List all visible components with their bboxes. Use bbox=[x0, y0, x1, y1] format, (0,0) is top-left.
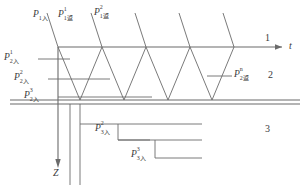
z-axis-label: Z bbox=[53, 168, 59, 178]
label-p-2-in-1: P112入 bbox=[4, 53, 13, 63]
layer2-boundary-group bbox=[10, 100, 300, 104]
ray-down-4 bbox=[190, 47, 212, 100]
step-bracket-3-riser bbox=[155, 140, 202, 158]
label-p-1-in: P11入 bbox=[33, 10, 42, 20]
escape-ray-3 bbox=[179, 13, 190, 47]
ray-up-2 bbox=[124, 47, 146, 100]
layer3-drop-lines bbox=[70, 104, 80, 185]
ray-down-1 bbox=[58, 47, 80, 100]
label-p-1-ret-2: P121返 bbox=[94, 8, 103, 18]
ray-up-4 bbox=[212, 47, 234, 100]
ray-down-2 bbox=[102, 47, 124, 100]
ray-path-figure: P11入 P111返 P121返 P112入 P122入 P132入 P1n2返… bbox=[0, 0, 308, 185]
surface-axis-group bbox=[58, 44, 282, 49]
label-p-3-in-3: P133入 bbox=[131, 150, 140, 160]
escape-ray-2 bbox=[135, 13, 146, 47]
ray-up-3 bbox=[168, 47, 190, 100]
layer-label-2: 2 bbox=[268, 70, 273, 80]
label-p-1-ret-1: P111返 bbox=[58, 10, 67, 20]
t-axis-label: t bbox=[289, 41, 292, 51]
layer-label-1: 1 bbox=[265, 33, 270, 43]
escape-ray-4 bbox=[223, 13, 234, 47]
incident-ray-segment bbox=[47, 13, 58, 47]
label-p-2-ret-n: P1n2返 bbox=[234, 70, 243, 80]
step-bracket-2-riser bbox=[118, 124, 150, 140]
escape-rays-group bbox=[91, 13, 234, 47]
layer-label-3: 3 bbox=[265, 124, 270, 134]
ray-path-zigzag bbox=[47, 13, 234, 100]
t-axis-arrowhead bbox=[275, 44, 282, 49]
ray-up-1 bbox=[80, 47, 102, 100]
label-p-3-in-2: P123入 bbox=[95, 124, 104, 134]
ray-down-3 bbox=[146, 47, 168, 100]
label-p-2-in-2: P122入 bbox=[14, 73, 23, 83]
ray-diagram-canvas bbox=[0, 0, 308, 185]
label-p-2-in-3: P132入 bbox=[24, 91, 33, 101]
z-axis-group bbox=[55, 47, 60, 168]
